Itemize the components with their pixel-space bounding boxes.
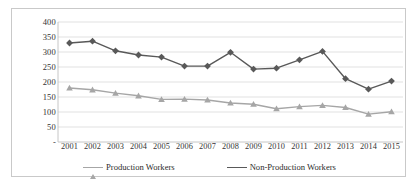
- data-point-marker: [181, 63, 188, 70]
- data-point-marker: [204, 63, 211, 70]
- x-tick-label: 2002: [84, 142, 101, 151]
- legend-item-production: Production Workers: [83, 162, 175, 172]
- x-tick-label: 2006: [176, 142, 193, 151]
- legend-item-non-production: Non-Production Workers: [227, 162, 336, 172]
- line-chart: -50100150200250300350400 200120022003200…: [12, 9, 407, 178]
- x-tick-label: 2015: [383, 142, 400, 151]
- x-tick-label: 2008: [222, 142, 239, 151]
- data-point-marker: [388, 78, 395, 85]
- data-point-marker: [89, 38, 96, 45]
- x-tick-label: 2010: [268, 142, 285, 151]
- legend-marker-diamond-icon: [227, 163, 247, 172]
- data-point-marker: [273, 65, 280, 72]
- data-point-marker: [135, 52, 142, 59]
- x-tick-label: 2012: [314, 142, 331, 151]
- x-tick-label: 2007: [199, 142, 216, 151]
- x-axis: 2001200220032004200520062007200820092010…: [58, 142, 403, 158]
- chart-legend: Production Workers Non-Production Worker…: [12, 159, 407, 175]
- data-point-marker: [112, 47, 119, 54]
- x-tick-label: 2013: [337, 142, 354, 151]
- legend-label-production: Production Workers: [106, 162, 175, 172]
- legend-label-non-production: Non-Production Workers: [250, 162, 336, 172]
- x-tick-label: 2001: [61, 142, 78, 151]
- x-tick-label: 2011: [291, 142, 308, 151]
- x-tick-label: 2003: [107, 142, 124, 151]
- legend-marker-triangle-icon: [83, 163, 103, 172]
- data-point-marker: [365, 86, 372, 93]
- chart-frame: -50100150200250300350400 200120022003200…: [11, 8, 406, 177]
- x-tick-label: 2009: [245, 142, 262, 151]
- data-point-marker: [296, 56, 303, 63]
- x-tick-label: 2005: [153, 142, 170, 151]
- x-tick-label: 2014: [360, 142, 377, 151]
- x-tick-label: 2004: [130, 142, 147, 151]
- data-point-marker: [158, 54, 165, 61]
- data-point-marker: [66, 40, 73, 47]
